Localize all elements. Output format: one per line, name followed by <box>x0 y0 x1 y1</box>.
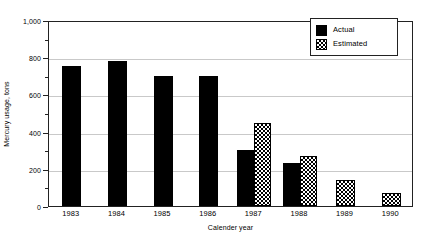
mercury-usage-bar-chart: Mercury usage, tons 02004006008001,000 1… <box>0 0 424 242</box>
bar-group <box>140 22 186 206</box>
x-axis-tick-label: 1983 <box>62 209 79 218</box>
y-axis-tick-label: 400 <box>29 129 41 136</box>
solid-black-swatch-icon <box>316 25 327 36</box>
y-axis-tick-label: 1,000 <box>23 18 41 25</box>
x-axis-tick-label: 1984 <box>108 209 125 218</box>
x-axis-tick-label: 1987 <box>245 209 262 218</box>
legend-item-actual: Actual <box>316 24 392 37</box>
legend: Actual Estimated <box>310 18 398 56</box>
bar-estimated-1988 <box>300 156 317 206</box>
y-axis: 02004006008001,000 <box>0 21 48 207</box>
legend-item-label: Actual <box>333 26 354 34</box>
y-axis-tick-label: 600 <box>29 92 41 99</box>
x-axis-tick-label: 1990 <box>382 209 399 218</box>
bar-actual-1986 <box>199 76 218 206</box>
checkerboard-swatch-icon <box>316 39 327 50</box>
y-axis-tick-label: 0 <box>37 204 41 211</box>
y-axis-tick-label: 200 <box>29 166 41 173</box>
legend-item-estimated: Estimated <box>316 38 392 51</box>
bar-group <box>49 22 95 206</box>
x-axis-tick-label: 1989 <box>336 209 353 218</box>
x-axis-tick-label: 1988 <box>290 209 307 218</box>
bar-actual-1988 <box>283 163 300 206</box>
y-axis-tick-label: 800 <box>29 55 41 62</box>
y-axis-tick <box>43 207 48 208</box>
bar-estimated-1989 <box>336 180 355 206</box>
legend-item-label: Estimated <box>333 40 367 48</box>
x-axis-tick-label: 1985 <box>154 209 171 218</box>
bar-estimated-1990 <box>382 193 401 206</box>
bar-group <box>95 22 141 206</box>
bar-group <box>186 22 232 206</box>
x-axis-title: Calender year <box>48 224 413 232</box>
bar-actual-1984 <box>108 61 127 206</box>
bar-actual-1985 <box>154 76 173 206</box>
bar-actual-1983 <box>62 66 81 206</box>
x-axis-tick-label: 1986 <box>199 209 216 218</box>
x-axis: 19831984198519861987198819891990 <box>48 209 413 223</box>
bar-estimated-1987 <box>254 123 271 206</box>
bar-group <box>232 22 278 206</box>
bar-actual-1987 <box>237 150 254 206</box>
